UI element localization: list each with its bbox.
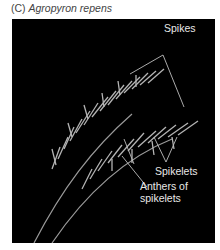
panel-letter: (C) bbox=[11, 2, 26, 14]
label-anthers-line1: Anthers of bbox=[140, 180, 188, 192]
plant-photo: Spikes Spikelets Anthers of spikelets bbox=[12, 19, 215, 243]
label-spikelets: Spikelets bbox=[155, 165, 198, 177]
grass-spikes-illustration bbox=[12, 19, 215, 243]
figure-caption: (C) Agropyron repens bbox=[11, 2, 112, 14]
label-anthers-line2: spikelets bbox=[140, 192, 181, 204]
species-name: Agropyron repens bbox=[29, 2, 112, 14]
label-spikes: Spikes bbox=[164, 22, 196, 34]
